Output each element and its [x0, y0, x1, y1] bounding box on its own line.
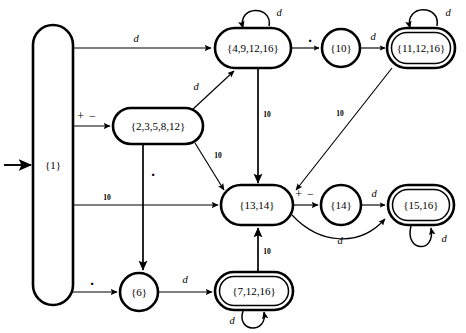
edge-label-s15-self: d	[441, 233, 447, 244]
state-node-10[interactable]: {10}	[322, 29, 360, 67]
state-node-13-14[interactable]: {13,14}	[221, 185, 293, 225]
edge-s13-s14: + −	[293, 187, 318, 205]
edge-s6-s7: d	[159, 274, 212, 292]
edge-s4-self: d	[242, 7, 282, 28]
edge-label-s13-s14: + −	[295, 187, 315, 201]
edge-s2-s4: d	[192, 71, 234, 110]
state-label-4-9-12-16: {4,9,12,16}	[227, 42, 279, 54]
edge-label-s4-s10: .	[308, 29, 312, 45]
edge-label-s2-s4: d	[193, 81, 199, 92]
edge-s2-s6: .	[143, 144, 155, 270]
edge-label-s7-self: d	[229, 315, 235, 326]
edge-label-s11-s13: 10	[336, 109, 344, 118]
edge-s7-s13: 10	[258, 228, 271, 272]
edge-label-s11-self: d	[445, 7, 451, 18]
automaton-diagram-canvas: d + − 10 . d . 10	[0, 0, 466, 333]
state-node-7-12-16[interactable]: {7,12,16}	[215, 272, 293, 310]
edge-label-s14-s15: d	[371, 188, 377, 199]
edge-label-s2-s6: .	[151, 163, 155, 179]
edge-s7-self: d	[229, 311, 264, 328]
edge-label-s1-s13: 10	[103, 193, 111, 202]
edge-s1-s4: d	[73, 33, 211, 48]
state-node-11-12-16[interactable]: {11,12,16}	[387, 28, 455, 68]
edge-s15-self: d	[410, 226, 447, 247]
edge-label-s10-s11: d	[370, 31, 376, 42]
edge-label-s4-self: d	[276, 7, 282, 18]
edge-s11-s13: 10	[296, 68, 392, 190]
edge-label-s2-s13: 10	[214, 151, 222, 160]
edge-label-s1-s4: d	[133, 33, 139, 44]
state-node-2-3-5-8-12[interactable]: {2,3,5,8,12}	[113, 108, 203, 144]
edge-s11-self: d	[409, 7, 451, 28]
edge-s14-s15: d	[362, 188, 385, 205]
edge-s10-s11: d	[361, 31, 385, 48]
edge-label-s13-s15: d	[337, 235, 343, 246]
edge-label-s1-s2: + −	[77, 109, 97, 123]
state-label-10: {10}	[330, 42, 352, 54]
state-label-6: {6}	[131, 286, 147, 298]
edge-label-s6-s7: d	[182, 274, 188, 285]
edge-s2-s13: 10	[195, 143, 224, 190]
edge-s1-s2: + −	[73, 109, 110, 126]
edge-s1-s6: .	[73, 272, 117, 292]
state-label-7-12-16: {7,12,16}	[232, 285, 276, 297]
state-node-4-9-12-16[interactable]: {4,9,12,16}	[215, 28, 291, 68]
edge-label-s4-s13: 10	[263, 110, 271, 119]
state-label-15-16: {15,16}	[403, 199, 438, 211]
state-node-14[interactable]: {14}	[321, 185, 361, 225]
state-node-1[interactable]: {1}	[33, 25, 73, 305]
state-label-1: {1}	[45, 159, 61, 171]
state-label-2-3-5-8-12: {2,3,5,8,12}	[131, 120, 186, 132]
state-node-15-16[interactable]: {15,16}	[388, 185, 454, 225]
state-label-11-12-16: {11,12,16}	[397, 42, 446, 54]
edge-label-s1-s6: .	[90, 272, 94, 288]
state-label-14: {14}	[330, 199, 352, 211]
edge-s1-s13: 10	[73, 193, 218, 205]
edge-s4-s10: .	[291, 29, 319, 48]
automaton-svg: d + − 10 . d . 10	[0, 0, 466, 333]
state-node-6[interactable]: {6}	[120, 273, 158, 311]
edge-s4-s13: 10	[258, 68, 271, 183]
edge-label-s7-s13: 10	[263, 247, 271, 256]
state-label-13-14: {13,14}	[239, 199, 274, 211]
